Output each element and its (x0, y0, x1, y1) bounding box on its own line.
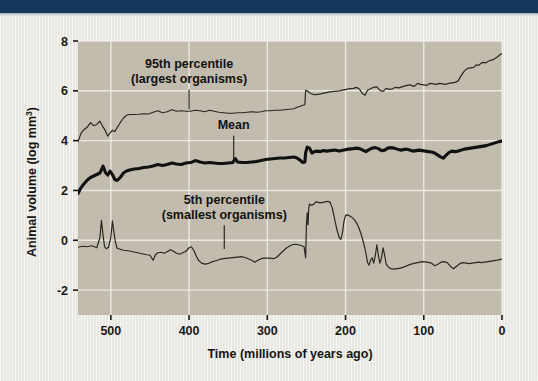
mean-annotation-text: Mean (218, 118, 250, 132)
x-tick-label-500: 500 (100, 324, 121, 338)
y-tick-label--2: -2 (57, 284, 68, 298)
y-axis-title: Animal volume (log mm3) (24, 107, 39, 257)
x-tick-label-200: 200 (335, 324, 356, 338)
y-tick-labels: 86420-2 (57, 35, 68, 298)
y-tick-label-2: 2 (61, 184, 68, 198)
x-tick-label-400: 400 (179, 324, 200, 338)
y-axis-title-tail: ) (25, 107, 39, 111)
x-axis-title: Time (millions of years ago) (207, 347, 372, 361)
x-tick-label-100: 100 (413, 324, 434, 338)
chart-svg: 86420-2 5004003002001000 95th percentile… (0, 0, 538, 381)
y-tick-label-0: 0 (61, 234, 68, 248)
figure-page: 86420-2 5004003002001000 95th percentile… (0, 0, 538, 381)
x-tick-labels: 5004003002001000 (100, 324, 505, 338)
y-tick-label-6: 6 (61, 84, 68, 98)
p95-annotation-text: 95th percentile(largest organisms) (131, 57, 247, 86)
x-tick-label-300: 300 (257, 324, 278, 338)
y-tick-label-8: 8 (61, 35, 68, 49)
y-axis-title-text: Animal volume (log mm (25, 116, 39, 257)
y-tick-label-4: 4 (61, 134, 68, 148)
x-tick-label-0: 0 (499, 324, 506, 338)
chart-figure: 86420-2 5004003002001000 95th percentile… (0, 0, 538, 381)
svg-text:Animal volume (log mm3): Animal volume (log mm3) (24, 107, 39, 257)
